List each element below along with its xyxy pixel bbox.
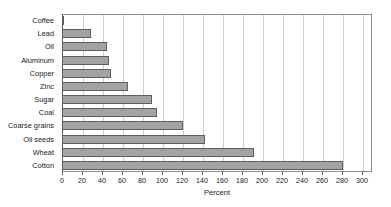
bar-row: [62, 14, 372, 27]
bar-row: [62, 159, 372, 172]
bar-row: [62, 106, 372, 119]
bar-row: [62, 119, 372, 132]
x-axis-tick-label: 160: [216, 176, 228, 185]
y-axis-label: Sugar: [34, 93, 54, 106]
y-axis-label: Zinc: [40, 80, 54, 93]
bar: [62, 42, 107, 51]
bar: [62, 121, 183, 130]
x-axis-tick: [162, 172, 163, 175]
y-axis-label: Coffee: [32, 14, 54, 27]
x-axis-tick-label: 260: [316, 176, 328, 185]
bar: [62, 16, 64, 25]
bar-row: [62, 67, 372, 80]
x-axis-tick: [182, 172, 183, 175]
y-axis-label: Lead: [38, 27, 54, 40]
bar-row: [62, 40, 372, 53]
x-axis-tick: [322, 172, 323, 175]
x-axis-tick: [202, 172, 203, 175]
y-axis-label: Oil seeds: [23, 133, 54, 146]
bar: [62, 95, 152, 104]
x-axis-tick: [142, 172, 143, 175]
x-axis-tick-label: 80: [138, 176, 146, 185]
bar-row: [62, 133, 372, 146]
y-axis-label: Coal: [39, 106, 54, 119]
bar-row: [62, 54, 372, 67]
bar: [62, 29, 91, 38]
clipped-title-strip: [0, 0, 391, 7]
bar-row: [62, 146, 372, 159]
bar-row: [62, 93, 372, 106]
x-axis-tick-label: 220: [276, 176, 288, 185]
x-axis-tick: [102, 172, 103, 175]
x-axis-tick-label: 20: [78, 176, 86, 185]
bar: [62, 161, 343, 170]
x-axis-tick: [82, 172, 83, 175]
x-axis-tick: [62, 172, 63, 175]
x-axis-tick: [122, 172, 123, 175]
bar-chart: CoffeeLeadOilAluminumCopperZincSugarCoal…: [0, 0, 391, 207]
bar: [62, 135, 205, 144]
x-axis-tick-label: 300: [356, 176, 368, 185]
y-axis-label: Aluminum: [21, 54, 54, 67]
x-axis-tick: [342, 172, 343, 175]
y-axis-label: Cotton: [32, 159, 54, 172]
bar: [62, 69, 111, 78]
bar: [62, 148, 254, 157]
x-axis-tick-label: 240: [296, 176, 308, 185]
y-axis-category-labels: CoffeeLeadOilAluminumCopperZincSugarCoal…: [0, 14, 58, 172]
bar: [62, 108, 157, 117]
bar: [62, 82, 128, 91]
y-axis-label: Coarse grains: [8, 119, 54, 132]
x-axis-tick-label: 100: [156, 176, 168, 185]
y-axis-label: Wheat: [33, 146, 54, 159]
bar: [62, 56, 109, 65]
x-axis-ticks: 0204060801001201401601802002202402602803…: [62, 172, 372, 188]
x-axis-tick: [242, 172, 243, 175]
x-axis-tick: [362, 172, 363, 175]
x-axis-tick-label: 60: [118, 176, 126, 185]
x-axis-tick: [262, 172, 263, 175]
x-axis-tick-label: 120: [176, 176, 188, 185]
y-axis-label: Oil: [45, 40, 54, 53]
x-axis-tick-label: 0: [60, 176, 64, 185]
bars-layer: [62, 14, 372, 172]
bar-row: [62, 80, 372, 93]
x-axis-tick: [282, 172, 283, 175]
x-axis-tick-label: 280: [336, 176, 348, 185]
x-axis-tick-label: 180: [236, 176, 248, 185]
x-axis-title: Percent: [62, 188, 372, 197]
bar-row: [62, 27, 372, 40]
y-axis-label: Copper: [30, 67, 54, 80]
x-axis-tick-label: 140: [196, 176, 208, 185]
x-axis-tick: [222, 172, 223, 175]
x-axis-tick-label: 200: [256, 176, 268, 185]
x-axis-tick: [302, 172, 303, 175]
x-axis-tick-label: 40: [98, 176, 106, 185]
